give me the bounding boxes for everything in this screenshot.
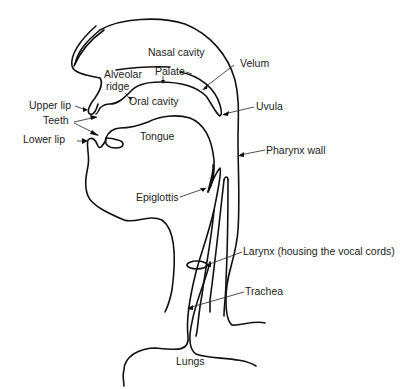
label-trachea: Trachea — [245, 286, 283, 297]
nasal-inner-line — [74, 30, 104, 66]
teeth-upper-arrowhead — [90, 115, 98, 120]
esophagus-front-line — [210, 180, 224, 312]
label-pharynx-wall: Pharynx wall — [266, 145, 326, 156]
lower-jaw-outline — [86, 138, 175, 312]
label-upper-lip: Upper lip — [29, 100, 71, 111]
trachea-leader — [188, 292, 244, 308]
esophagus-inner-line — [224, 180, 228, 316]
larynx-leader — [207, 252, 242, 265]
label-palate: Palate — [155, 66, 185, 77]
velum-leader — [204, 65, 234, 88]
label-tongue: Tongue — [140, 131, 174, 142]
label-lower-lip: Lower lip — [23, 134, 65, 145]
airway-front-wall — [196, 210, 214, 336]
uvula-arrowhead — [222, 111, 229, 116]
nasal-cavity-outline — [72, 26, 102, 114]
label-ridge: ridge — [106, 81, 129, 92]
label-teeth: Teeth — [43, 115, 69, 126]
label-lungs: Lungs — [176, 356, 205, 367]
teeth-lower-arrowhead — [90, 130, 99, 136]
label-velum: Velum — [240, 58, 269, 69]
label-oral-cavity: Oral cavity — [129, 96, 179, 107]
label-uvula: Uvula — [256, 101, 283, 112]
label-larynx: Larynx (housing the vocal cords) — [243, 246, 395, 257]
label-alveolar: Alveolar — [104, 69, 142, 80]
label-epiglottis: Epiglottis — [136, 192, 179, 203]
label-nasal-cavity: Nasal cavity — [148, 47, 205, 58]
velum-arrowhead — [202, 84, 208, 90]
upper-lip-arrowhead — [83, 107, 88, 112]
tongue-outline — [106, 116, 214, 192]
esophagus-cap — [224, 177, 228, 180]
tongue-tip-outline — [105, 138, 123, 148]
vocal-tract-diagram — [0, 0, 413, 389]
